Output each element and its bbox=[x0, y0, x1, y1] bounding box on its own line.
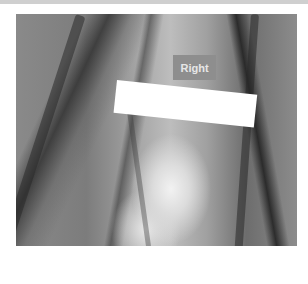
specimen-photo: Right bbox=[16, 14, 297, 246]
orientation-label: Right bbox=[173, 55, 216, 80]
dark-streak bbox=[16, 14, 86, 245]
dark-streak bbox=[234, 14, 259, 246]
top-border-strip bbox=[0, 0, 308, 4]
dark-streak bbox=[126, 103, 152, 246]
